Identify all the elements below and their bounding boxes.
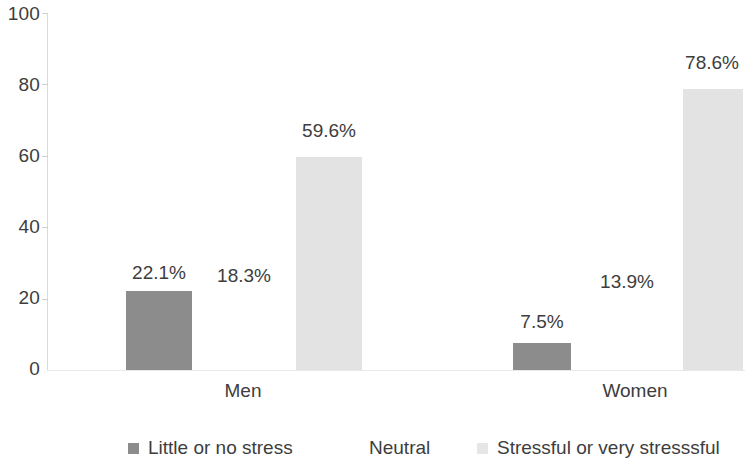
x-axis-label-men: Men — [183, 381, 303, 401]
bar-men-little-or-no-stress — [126, 13, 192, 370]
bar-fill — [683, 89, 743, 370]
bar-women-neutral — [598, 13, 656, 370]
bars-layer — [0, 13, 745, 370]
value-label-men-stressful-or-very-stresssful: 59.6% — [296, 121, 362, 140]
bar-chart: 100 80 60 40 20 0 — [0, 0, 745, 465]
legend-swatch-icon — [349, 443, 360, 454]
x-axis-label-women: Women — [575, 381, 695, 401]
x-axis-line — [47, 370, 745, 371]
bar-men-neutral — [211, 13, 277, 370]
bar-fill — [211, 305, 277, 370]
legend-swatch-icon — [128, 443, 139, 454]
chart-legend: Little or no stress Neutral Stressful or… — [0, 436, 745, 462]
legend-item-little-or-no-stress: Little or no stress — [128, 436, 293, 460]
legend-label: Little or no stress — [148, 438, 293, 458]
value-label-men-neutral: 18.3% — [211, 266, 277, 285]
value-label-women-neutral: 13.9% — [596, 272, 658, 291]
bar-fill — [598, 320, 656, 370]
legend-label: Neutral — [369, 438, 430, 458]
legend-label: Stressful or very stresssful — [497, 438, 720, 458]
bar-men-stressful-or-very-stresssful — [296, 13, 362, 370]
bar-fill — [513, 343, 571, 370]
bar-fill — [296, 157, 362, 370]
legend-item-stressful-or-very-stresssful: Stressful or very stresssful — [477, 436, 720, 460]
value-label-women-little-or-no-stress: 7.5% — [513, 312, 571, 331]
value-label-men-little-or-no-stress: 22.1% — [126, 263, 192, 282]
legend-item-neutral: Neutral — [349, 436, 430, 460]
value-label-women-stressful-or-very-stresssful: 78.6% — [681, 53, 743, 72]
bar-fill — [126, 291, 192, 370]
legend-swatch-icon — [477, 443, 488, 454]
